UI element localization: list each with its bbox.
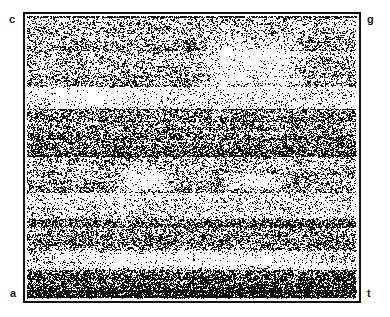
corner-label-c: c (9, 14, 15, 25)
cgr-scatter-canvas (27, 16, 357, 299)
corner-label-t: t (367, 288, 371, 299)
plot-frame (23, 12, 361, 303)
plot-area (27, 16, 357, 299)
corner-label-a: a (10, 288, 16, 299)
cgr-figure: c g a t (0, 0, 390, 317)
corner-label-g: g (367, 14, 374, 25)
